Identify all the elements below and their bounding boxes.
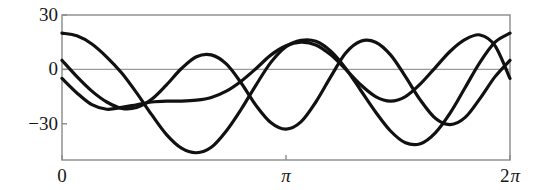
x-tick-coefficient: 2 bbox=[500, 165, 510, 186]
data-series-group bbox=[62, 33, 510, 153]
series-line-3 bbox=[62, 35, 510, 110]
series-line-1 bbox=[62, 33, 510, 153]
plot-frame bbox=[62, 15, 510, 160]
line-chart-plot bbox=[0, 0, 540, 190]
x-tick-marks bbox=[62, 155, 510, 160]
x-tick-label: 2π bbox=[500, 166, 520, 185]
y-tick-label: 0 bbox=[6, 59, 58, 78]
frame-rectangle bbox=[62, 15, 510, 160]
x-tick-label: π bbox=[281, 166, 291, 185]
pi-symbol: π bbox=[281, 165, 291, 186]
chart-figure: 300−30 0π2π bbox=[0, 0, 540, 190]
y-tick-label: 30 bbox=[6, 5, 58, 24]
pi-symbol: π bbox=[510, 165, 520, 186]
y-tick-marks bbox=[62, 15, 67, 124]
y-tick-label: −30 bbox=[6, 114, 58, 133]
x-tick-label: 0 bbox=[57, 166, 67, 185]
